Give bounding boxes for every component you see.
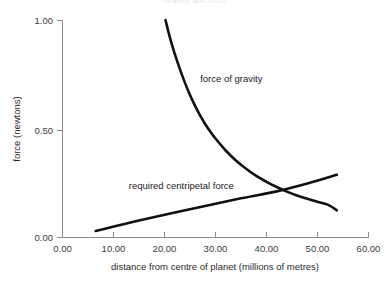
y-tick-label-0-5: 0.50 xyxy=(35,125,54,136)
y-axis xyxy=(57,20,63,238)
chart-figure: Gravity and force 1.00 0.50 0.00 0.00 10… xyxy=(0,0,390,287)
y-tick-label-1: 1.00 xyxy=(35,15,54,26)
x-axis-title: distance from centre of planet (millions… xyxy=(111,261,319,272)
line-chart-plot: 1.00 0.50 0.00 0.00 10.00 20.00 30.00 40… xyxy=(0,0,390,287)
x-tick-label-0: 0.00 xyxy=(53,243,72,254)
series-label-required-centripetal-force: required centripetal force xyxy=(129,180,234,191)
x-tick-label-50: 50.00 xyxy=(306,243,330,254)
x-axis xyxy=(63,232,369,238)
series-label-force-of-gravity: force of gravity xyxy=(200,73,263,84)
x-tick-label-20: 20.00 xyxy=(153,243,177,254)
x-tick-label-40: 40.00 xyxy=(255,243,279,254)
x-tick-label-10: 10.00 xyxy=(102,243,126,254)
x-tick-label-30: 30.00 xyxy=(204,243,228,254)
y-axis-title: force (newtons) xyxy=(11,96,22,161)
x-tick-label-60: 60.00 xyxy=(357,243,381,254)
y-tick-label-0: 0.00 xyxy=(35,232,54,243)
